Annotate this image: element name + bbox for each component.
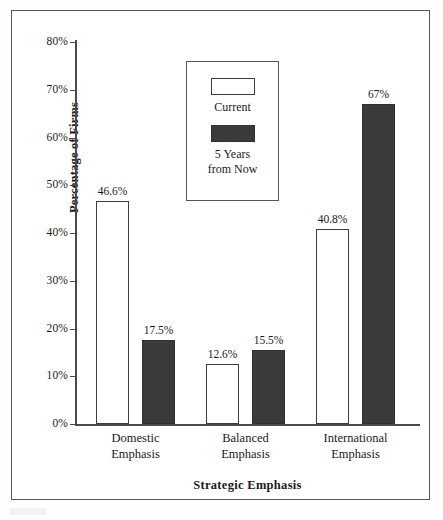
y-axis-tick-label: 30%: [22, 275, 68, 287]
y-axis-tick-label: 10%: [22, 370, 68, 382]
bar-current[interactable]: [206, 364, 239, 424]
bar-value-label: 40.8%: [304, 213, 361, 225]
y-axis-tick-label: 50%: [22, 179, 68, 191]
bar-future[interactable]: [362, 104, 395, 424]
x-axis-title: Strategic Emphasis: [75, 478, 420, 493]
bar-future[interactable]: [252, 350, 285, 424]
y-axis-tick-label: 0%: [22, 418, 68, 430]
legend-label-future-line1: 5 Years: [187, 147, 278, 162]
y-axis-tick-label: 80%: [22, 36, 68, 48]
legend-label-current: Current: [187, 100, 278, 115]
y-axis-tick-mark: [70, 90, 76, 91]
y-axis-tick-mark: [70, 376, 76, 377]
bar-current[interactable]: [96, 201, 129, 424]
x-axis-line: [75, 424, 420, 426]
y-axis-tick-mark: [70, 424, 76, 425]
x-axis-category-label-line: International: [296, 431, 416, 447]
legend-label-future-line2: from Now: [187, 162, 278, 177]
y-axis-tick-mark: [70, 281, 76, 282]
x-axis-category-label-line: Domestic: [76, 431, 196, 447]
bar-value-label: 12.6%: [194, 348, 251, 360]
x-axis-category-label: DomesticEmphasis: [76, 431, 196, 462]
legend-label-future: 5 Years from Now: [187, 147, 278, 176]
y-axis-tick-label: 70%: [22, 84, 68, 96]
y-axis-tick-label: 40%: [22, 227, 68, 239]
page-scan-artifact: [10, 508, 46, 515]
x-axis-category-label-line: Emphasis: [186, 447, 306, 463]
legend-swatch-future: [211, 125, 255, 142]
figure: Percentage of Firms 0%10%20%30%40%50%60%…: [0, 0, 443, 520]
y-axis-tick-label: 20%: [22, 323, 68, 335]
y-axis-tick-mark: [70, 329, 76, 330]
y-axis-tick-mark: [70, 138, 76, 139]
bar-future[interactable]: [142, 340, 175, 424]
x-axis-category-label-line: Balanced: [186, 431, 306, 447]
chart-legend: Current 5 Years from Now: [186, 61, 279, 201]
bar-value-label: 67%: [350, 88, 407, 100]
y-axis-tick-mark: [70, 233, 76, 234]
x-axis-category-label: InternationalEmphasis: [296, 431, 416, 462]
y-axis-tick-mark: [70, 42, 76, 43]
y-axis-title: Percentage of Firms: [67, 78, 82, 238]
bar-current[interactable]: [316, 229, 349, 424]
bar-value-label: 17.5%: [130, 324, 187, 336]
y-axis-tick-label: 60%: [22, 132, 68, 144]
x-axis-category-label-line: Emphasis: [76, 447, 196, 463]
bar-value-label: 46.6%: [84, 185, 141, 197]
x-axis-category-label-line: Emphasis: [296, 447, 416, 463]
x-axis-category-label: BalancedEmphasis: [186, 431, 306, 462]
bar-value-label: 15.5%: [240, 334, 297, 346]
y-axis-tick-mark: [70, 185, 76, 186]
legend-swatch-current: [211, 78, 255, 95]
